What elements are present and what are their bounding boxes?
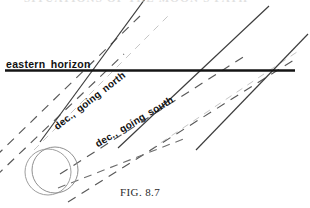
dec-going-south-lower-line	[68, 60, 294, 202]
figure-fig-8-7: SITUATIONS OF THE MOON'S PATH eastern ho…	[0, 0, 310, 208]
dec-going-north-upper-line	[0, 16, 140, 156]
dashed-light-upper-line	[34, 14, 170, 150]
faint-dashed-guides	[34, 14, 300, 150]
solid-path-3-line	[196, 34, 308, 150]
figure-canvas	[0, 0, 310, 208]
solid-rising-paths	[40, 0, 308, 150]
dashed-declination-paths	[0, 16, 294, 202]
solid-path-2-line	[118, 6, 269, 148]
celestial-disc-group	[25, 147, 78, 195]
dec-going-north-lower-line	[0, 54, 124, 176]
